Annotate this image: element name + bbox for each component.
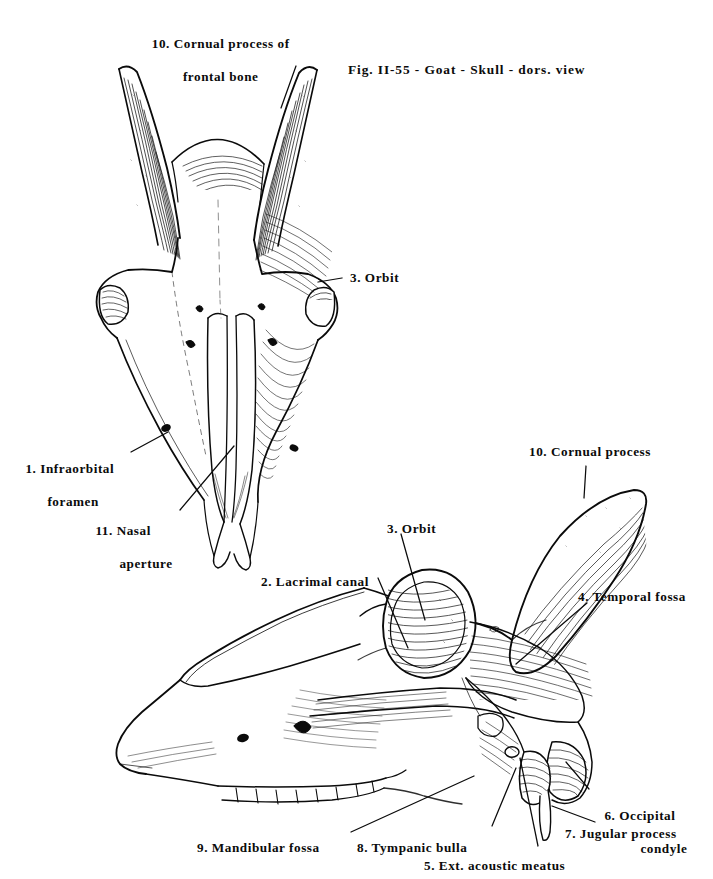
leader-mandibular-fossa [351, 776, 474, 832]
label-line-1: 6. Occipital [604, 808, 675, 823]
label-line-2: frontal bone [183, 69, 259, 84]
leader-infraorbital [131, 432, 168, 452]
label-line-1: 10. Cornual process of [152, 36, 290, 51]
figure-caption: Fig. II-55 - Goat - Skull - dors. view [348, 62, 585, 79]
label-tympanic-bulla: 8. Tympanic bulla [357, 840, 467, 857]
label-orbit-lateral: 3. Orbit [387, 521, 436, 538]
dorsal-skull-drawing [97, 67, 338, 570]
leader-tympanic-bulla [492, 768, 516, 826]
label-nasal-aperture: 11. Nasal aperture [80, 506, 173, 589]
label-cornual-process: 10. Cornual process [529, 444, 651, 461]
label-line-1: 1. Infraorbital [25, 461, 114, 476]
lateral-skull-drawing [116, 490, 648, 840]
leader-lines [131, 66, 595, 846]
skull-illustration [0, 0, 713, 879]
label-line-1: 11. Nasal [95, 523, 151, 538]
anatomical-plate: 10. Cornual process of frontal bone Fig.… [0, 0, 713, 879]
label-line-2: condyle [604, 841, 687, 858]
label-lacrimal-canal: 2. Lacrimal canal [261, 574, 369, 591]
label-ext-acoustic-meatus: 5. Ext. acoustic meatus [424, 858, 565, 875]
label-jugular-process: 7. Jugular process [565, 826, 677, 843]
label-line-2: aperture [95, 556, 172, 573]
label-temporal-fossa: 4. Temporal fossa [578, 589, 686, 606]
leader-cornual-process [584, 466, 586, 498]
label-cornual-process-frontal-bone: 10. Cornual process of frontal bone [118, 19, 308, 102]
label-orbit-dorsal: 3. Orbit [350, 270, 399, 287]
label-mandibular-fossa: 9. Mandibular fossa [197, 840, 320, 857]
